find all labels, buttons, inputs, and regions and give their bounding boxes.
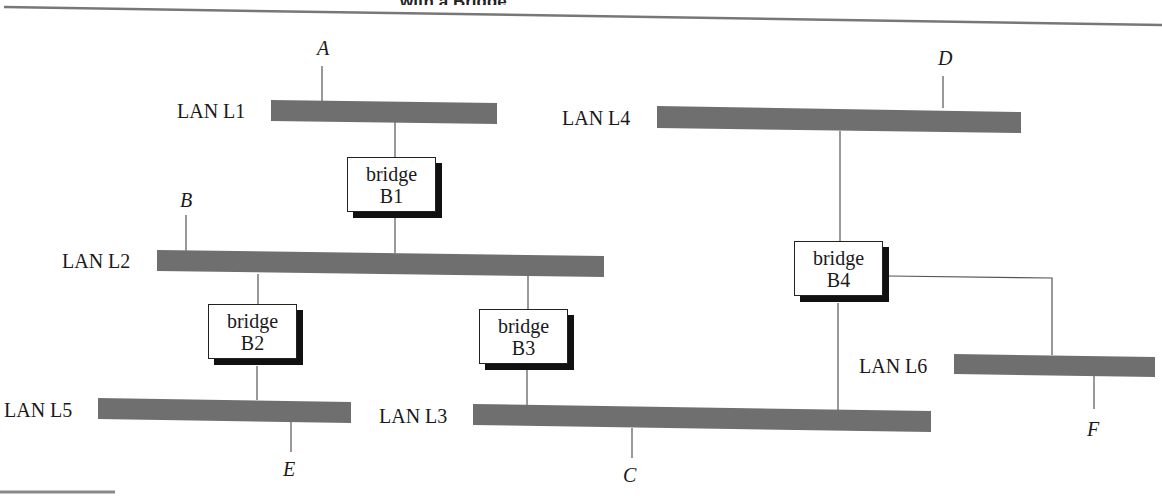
host-label-b: B <box>180 190 192 210</box>
bridge-b1: bridge B1 <box>347 157 436 212</box>
bridge-b2-name: B2 <box>209 332 296 354</box>
lan-bar-l2 <box>157 250 604 277</box>
host-label-c: C <box>623 465 636 485</box>
b4-link-l6 <box>889 276 1052 355</box>
host-label-f: F <box>1087 419 1099 439</box>
lan-label-l3: LAN L3 <box>379 406 447 426</box>
top-rule <box>4 7 1162 25</box>
bridge-b1-word: bridge <box>348 163 435 185</box>
lan-bar-l3 <box>473 404 931 432</box>
lan-label-l6: LAN L6 <box>859 356 927 376</box>
host-label-e: E <box>283 459 295 479</box>
bridge-b4: bridge B4 <box>794 241 883 296</box>
bridge-b3: bridge B3 <box>479 309 568 364</box>
lan-label-l5: LAN L5 <box>4 400 72 420</box>
bridge-b2: bridge B2 <box>208 304 297 359</box>
lan-bar-l6 <box>954 354 1155 377</box>
bridge-b3-name: B3 <box>480 337 567 359</box>
lan-bar-l4 <box>657 106 1021 133</box>
lan-bar-l5 <box>98 398 351 423</box>
bridge-b3-word: bridge <box>480 315 567 337</box>
host-label-d: D <box>938 48 952 68</box>
lan-label-l2: LAN L2 <box>62 251 130 271</box>
bridge-b4-name: B4 <box>795 269 882 291</box>
bridge-b1-name: B1 <box>348 185 435 207</box>
host-label-a: A <box>317 38 329 58</box>
lan-label-l4: LAN L4 <box>562 108 630 128</box>
network-diagram <box>0 0 1162 496</box>
lan-label-l1: LAN L1 <box>177 101 245 121</box>
bridge-b4-word: bridge <box>795 247 882 269</box>
lan-bar-l1 <box>271 100 497 124</box>
bridge-b2-word: bridge <box>209 310 296 332</box>
